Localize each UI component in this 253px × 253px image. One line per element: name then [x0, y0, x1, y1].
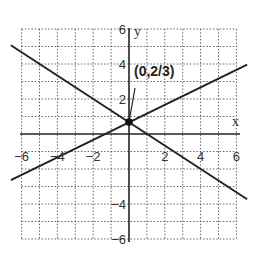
x-tick-label: 4: [197, 149, 204, 164]
intersection-point: [125, 118, 133, 126]
x-tick-label: −4: [50, 149, 65, 164]
intersection-annotation: (0,2/3): [134, 63, 174, 79]
x-tick-label: 6: [233, 149, 240, 164]
y-tick-label: 4: [119, 57, 126, 72]
y-tick-label: 2: [119, 92, 126, 107]
y-tick-label: −6: [111, 232, 126, 247]
y-axis-label: y: [134, 24, 141, 39]
coordinate-plot: −6−4−2246642−4−6 x y (0,2/3): [0, 0, 253, 253]
x-tick-label: −2: [86, 149, 101, 164]
x-axis-label: x: [232, 114, 239, 129]
y-tick-label: 6: [119, 22, 126, 37]
x-tick-label: −6: [14, 149, 29, 164]
y-tick-label: −4: [111, 197, 126, 212]
x-tick-label: 2: [161, 149, 168, 164]
